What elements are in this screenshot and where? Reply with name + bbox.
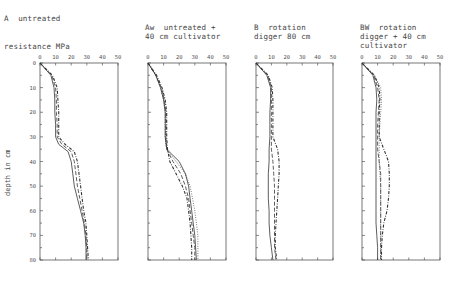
- panel-2: 01020304050: [254, 54, 336, 260]
- y-tick-label: 80: [29, 257, 36, 263]
- y-axis-label: depth in cm: [4, 150, 12, 196]
- x-tick-label: 0: [254, 54, 257, 60]
- x-tick-label: 30: [299, 54, 306, 60]
- x-tick-label: 10: [160, 54, 167, 60]
- x-tick-label: 40: [314, 54, 321, 60]
- x-tick-label: 20: [283, 54, 290, 60]
- x-tick-label: 10: [268, 54, 275, 60]
- series-line-solid: [148, 63, 196, 260]
- y-tick-label: 10: [29, 85, 36, 91]
- y-tick-label: 0: [33, 60, 36, 66]
- x-tick-label: 50: [115, 54, 122, 60]
- y-tick-label: 20: [29, 109, 36, 115]
- panel-0: 0102030405001020304050607080: [29, 54, 121, 263]
- panel-title: B rotation digger 80 cm: [254, 23, 311, 41]
- y-tick-label: 40: [29, 159, 36, 165]
- x-tick-label: 30: [191, 54, 198, 60]
- x-tick-label: 30: [405, 54, 412, 60]
- y-tick-label: 70: [29, 232, 36, 238]
- x-tick-label: 50: [223, 54, 230, 60]
- y-tick-label: 30: [29, 134, 36, 140]
- x-tick-label: 40: [99, 54, 106, 60]
- x-tick-label: 20: [176, 54, 183, 60]
- x-tick-label: 50: [437, 54, 444, 60]
- series-line-dashed: [148, 63, 195, 260]
- x-tick-label: 30: [83, 54, 90, 60]
- panel-title: A untreated: [4, 14, 61, 23]
- x-axis-label: resistance MPa: [4, 42, 70, 51]
- x-tick-label: 40: [207, 54, 214, 60]
- panel-1: 01020304050: [146, 54, 229, 260]
- x-tick-label: 10: [374, 54, 381, 60]
- x-tick-label: 20: [68, 54, 75, 60]
- x-tick-label: 10: [52, 54, 59, 60]
- series-line-dash-dot: [40, 63, 88, 260]
- y-tick-label: 50: [29, 183, 36, 189]
- panel-title: Aw untreated + 40 cm cultivator: [145, 23, 220, 41]
- x-tick-label: 0: [146, 54, 149, 60]
- x-tick-label: 50: [330, 54, 337, 60]
- x-tick-label: 0: [38, 54, 41, 60]
- series-line-dashed: [40, 63, 87, 260]
- y-tick-label: 60: [29, 208, 36, 214]
- x-tick-label: 0: [360, 54, 363, 60]
- x-tick-label: 40: [421, 54, 428, 60]
- panel-3: 01020304050: [360, 54, 443, 260]
- series-line-dash-dot: [256, 63, 279, 260]
- x-tick-label: 20: [390, 54, 397, 60]
- panel-title: BW rotation digger + 40 cm cultivator: [360, 23, 426, 50]
- series-line-dash-dot: [148, 63, 192, 260]
- series-line-solid: [40, 63, 86, 260]
